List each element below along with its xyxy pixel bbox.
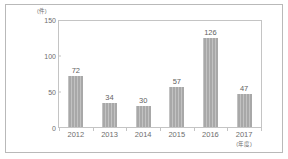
bar-slot-2014: 30 — [127, 21, 160, 127]
bar-value-2013: 34 — [105, 93, 113, 102]
y-axis-tick-labels: 150 100 50 0 — [32, 20, 56, 128]
x-axis-category-note: (年度) — [228, 140, 261, 148]
y-tick-label-0: 0 — [34, 125, 56, 132]
x-tick-mark — [227, 128, 228, 131]
x-label-slot-2016: 2016 — [194, 130, 227, 148]
x-label-slot-2014: 2014 — [127, 130, 160, 148]
bar-value-2014: 30 — [139, 96, 147, 105]
bar-2013 — [102, 103, 117, 127]
x-tick-mark — [59, 128, 60, 131]
x-tick-label-2016: 2016 — [194, 130, 227, 139]
x-tick-mark — [261, 128, 262, 131]
x-label-slot-2015: 2015 — [160, 130, 193, 148]
x-tick-label-2017: 2017 — [228, 130, 261, 139]
x-tick-label-2015: 2015 — [160, 130, 193, 139]
bar-value-2016: 126 — [204, 28, 217, 37]
bar-value-2012: 72 — [72, 66, 80, 75]
bar-slot-2013: 34 — [93, 21, 126, 127]
bar-value-2017: 47 — [240, 84, 248, 93]
bar-slot-2017: 47 — [228, 21, 261, 127]
x-tick-label-2014: 2014 — [127, 130, 160, 139]
x-label-slot-2013: 2013 — [93, 130, 126, 148]
y-tick-label-150: 150 — [34, 17, 56, 24]
x-label-slot-2017: 2017 (年度) — [228, 130, 261, 148]
bar-value-2015: 57 — [173, 77, 181, 86]
x-tick-mark — [194, 128, 195, 131]
y-tick-label-50: 50 — [34, 89, 56, 96]
y-tick-label-100: 100 — [34, 53, 56, 60]
bar-slot-2016: 126 — [194, 21, 227, 127]
x-tick-label-2012: 2012 — [59, 130, 92, 139]
bar-2015 — [169, 87, 184, 127]
y-axis-unit-label: (件) — [37, 7, 47, 15]
bar-2012 — [68, 76, 83, 127]
bar-2014 — [136, 106, 151, 127]
x-tick-mark — [160, 128, 161, 131]
bar-slot-2015: 57 — [160, 21, 193, 127]
bar-2016 — [203, 38, 218, 127]
bar-series: 72 34 30 57 126 47 — [59, 21, 261, 127]
chart-figure: (件) 150 100 50 0 72 34 30 57 126 47 — [0, 0, 288, 159]
bar-slot-2012: 72 — [59, 21, 92, 127]
x-tick-mark — [126, 128, 127, 131]
x-label-slot-2012: 2012 — [59, 130, 92, 148]
x-axis-tick-labels: 2012 2013 2014 2015 2016 2017 (年度) — [59, 130, 261, 148]
bar-2017 — [237, 94, 252, 127]
x-tick-label-2013: 2013 — [93, 130, 126, 139]
x-tick-mark — [93, 128, 94, 131]
